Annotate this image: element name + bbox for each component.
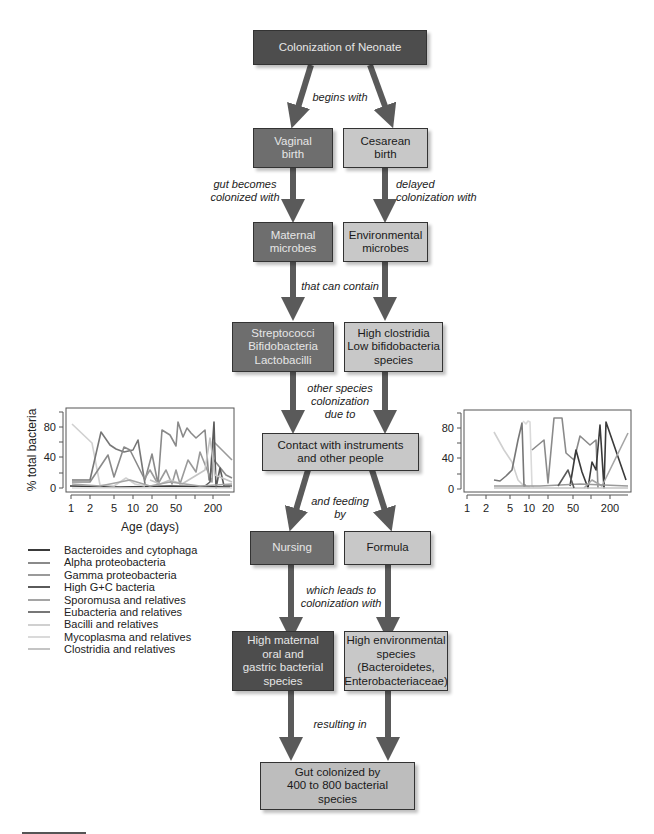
legend-swatch <box>28 648 50 650</box>
x-tick-200: 200 <box>204 502 222 514</box>
legend-label: Eubacteria and relatives <box>64 606 182 618</box>
node-label: Cesarean birth <box>361 135 411 162</box>
node-streptococci-bifidobacteria-lactobacilli: Streptococci Bifidobacteria Lactobacilli <box>232 322 334 372</box>
y-tick-0: 0 <box>448 483 454 495</box>
legend-swatch <box>28 624 50 626</box>
legend-swatch <box>28 574 50 576</box>
legend-item-mycoplasma: Mycoplasma and relatives <box>28 631 197 643</box>
legend-label: Clostridia and relatives <box>64 643 175 655</box>
legend-label: Mycoplasma and relatives <box>64 631 191 643</box>
x-tick-50: 50 <box>170 502 182 514</box>
node-label: Colonization of Neonate <box>279 41 402 55</box>
legend-swatch <box>28 586 50 588</box>
node-vaginal-birth: Vaginal birth <box>253 128 333 168</box>
legend-label: Bacilli and relatives <box>64 618 158 630</box>
node-environmental-microbes: Environmental microbes <box>343 222 428 262</box>
node-maternal-microbes: Maternal microbes <box>253 222 333 262</box>
node-nursing: Nursing <box>250 531 334 565</box>
x-tick-10: 10 <box>523 502 535 514</box>
right-line-chart: 80 40 0 1 2 5 10 20 50 200 <box>420 400 654 520</box>
legend-label: High G+C bacteria <box>64 581 155 593</box>
legend-swatch <box>28 599 50 601</box>
node-label: Maternal microbes <box>270 229 317 256</box>
node-label: Nursing <box>272 541 312 555</box>
node-label: Contact with instruments and other peopl… <box>278 439 404 466</box>
x-tick-5: 5 <box>111 502 117 514</box>
legend-swatch <box>28 636 50 638</box>
node-label: Gut colonized by 400 to 800 bacterial sp… <box>287 766 388 807</box>
x-tick-20: 20 <box>542 502 554 514</box>
node-contact-with-instruments: Contact with instruments and other peopl… <box>262 433 419 471</box>
x-tick-1: 1 <box>464 502 470 514</box>
edge-label-begins-with: begins with <box>300 91 380 104</box>
edge-label-and-feeding-by: and feeding by <box>300 495 380 521</box>
node-gut-colonized: Gut colonized by 400 to 800 bacterial sp… <box>260 762 415 810</box>
node-high-environmental-species: High environmental species (Bacteroidete… <box>344 631 448 691</box>
legend-swatch <box>28 549 50 551</box>
node-formula: Formula <box>344 531 431 565</box>
legend-swatch <box>28 562 50 564</box>
node-label: Vaginal birth <box>274 135 312 162</box>
node-label: Formula <box>366 541 408 555</box>
edge-label-gut-becomes-colonized: gut becomes colonized with <box>200 178 290 204</box>
edge-label-resulting-in: resulting in <box>300 718 380 731</box>
x-axis-label: Age (days) <box>121 520 179 534</box>
node-label: High maternal oral and gastric bacterial… <box>243 634 324 688</box>
legend-item-clostridia: Clostridia and relatives <box>28 643 197 655</box>
legend-item-gamma-proteobacteria: Gamma proteobacteria <box>28 569 197 581</box>
y-tick-80: 80 <box>44 421 56 433</box>
x-tick-200: 200 <box>601 502 619 514</box>
x-tick-10: 10 <box>127 502 139 514</box>
legend-label: Sporomusa and relatives <box>64 594 186 606</box>
edge-label-which-leads-to: which leads to colonization with <box>296 584 386 610</box>
y-tick-80: 80 <box>442 422 454 434</box>
edge-label-delayed-colonization: delayed colonization with <box>396 178 496 204</box>
legend-item-eubacteria: Eubacteria and relatives <box>28 606 197 618</box>
edge-label-that-can-contain: that can contain <box>290 280 390 293</box>
legend-swatch <box>28 611 50 613</box>
node-label: High clostridia Low bifidobacteria speci… <box>347 327 440 368</box>
legend-item-bacteroides: Bacteroides and cytophaga <box>28 544 197 556</box>
legend-item-high-gc-bacteria: High G+C bacteria <box>28 581 197 593</box>
y-tick-0: 0 <box>50 482 56 494</box>
chart-legend: Bacteroides and cytophaga Alpha proteoba… <box>28 544 197 656</box>
x-tick-20: 20 <box>146 502 158 514</box>
node-label: High environmental species (Bacteroidete… <box>344 634 448 688</box>
node-high-maternal-oral-gastric: High maternal oral and gastric bacterial… <box>232 631 334 691</box>
node-cesarean-birth: Cesarean birth <box>343 128 428 168</box>
y-axis-label: % total bacteria <box>25 408 39 491</box>
node-label: Environmental microbes <box>349 229 423 256</box>
legend-item-sporomusa: Sporomusa and relatives <box>28 594 197 606</box>
x-tick-1: 1 <box>68 502 74 514</box>
edge-label-other-species: other species colonization due to <box>298 382 382 421</box>
left-line-chart: 80 40 0 1 2 5 10 20 50 200 Age (days) % … <box>0 400 240 550</box>
legend-item-bacilli: Bacilli and relatives <box>28 618 197 630</box>
node-label: Streptococci Bifidobacteria Lactobacilli <box>248 327 318 368</box>
legend-label: Alpha proteobacteria <box>64 556 166 568</box>
legend-item-alpha-proteobacteria: Alpha proteobacteria <box>28 556 197 568</box>
legend-label: Bacteroides and cytophaga <box>64 544 197 556</box>
x-tick-2: 2 <box>483 502 489 514</box>
node-colonization-of-neonate: Colonization of Neonate <box>253 30 427 65</box>
y-tick-40: 40 <box>442 452 454 464</box>
y-tick-40: 40 <box>44 451 56 463</box>
legend-label: Gamma proteobacteria <box>64 569 177 581</box>
x-tick-5: 5 <box>507 502 513 514</box>
node-high-clostridia: High clostridia Low bifidobacteria speci… <box>344 322 443 372</box>
x-tick-50: 50 <box>567 502 579 514</box>
x-tick-2: 2 <box>87 502 93 514</box>
